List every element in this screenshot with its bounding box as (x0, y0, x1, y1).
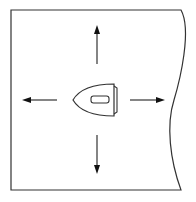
arrow-down-icon (94, 135, 100, 174)
ironing-diagram (0, 0, 196, 202)
arrow-up-icon (94, 25, 100, 64)
iron-icon (73, 84, 117, 116)
arrow-right-icon (130, 97, 165, 103)
arrow-left-icon (22, 97, 57, 103)
